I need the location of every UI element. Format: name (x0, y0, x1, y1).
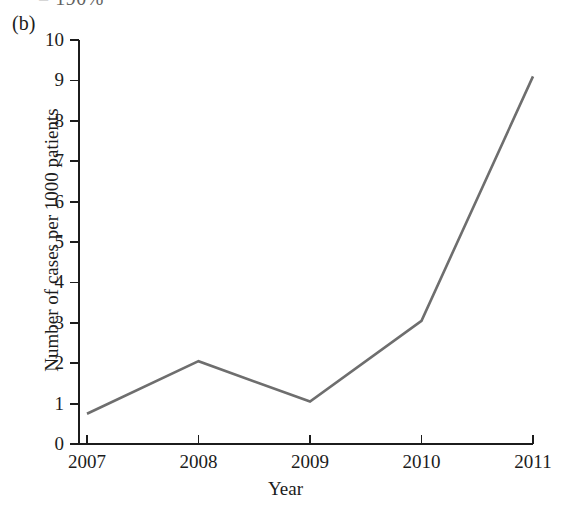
line-chart-plot (0, 0, 571, 505)
y-tick-label-2: 2 (34, 352, 64, 374)
figure-panel-b: = 190% (b) Number of cases per 1000 pati… (0, 0, 571, 505)
y-tick-label-8: 8 (34, 110, 64, 132)
y-tick-label-4: 4 (34, 271, 64, 293)
y-tick-label-7: 7 (34, 150, 64, 172)
y-tick-label-5: 5 (34, 231, 64, 253)
x-tick-label-2009: 2009 (270, 451, 350, 473)
y-tick-label-3: 3 (34, 312, 64, 334)
y-tick-label-1: 1 (34, 393, 64, 415)
y-tick-label-6: 6 (34, 191, 64, 213)
data-series-line (87, 76, 533, 413)
x-tick-label-2008: 2008 (159, 451, 239, 473)
x-tick-label-2011: 2011 (493, 451, 571, 473)
y-tick-label-9: 9 (34, 69, 64, 91)
axes-group (79, 40, 533, 444)
x-tick-label-2007: 2007 (47, 451, 127, 473)
x-tick-label-2010: 2010 (382, 451, 462, 473)
y-tick-label-10: 10 (34, 29, 64, 51)
tick-marks-group (70, 40, 533, 444)
